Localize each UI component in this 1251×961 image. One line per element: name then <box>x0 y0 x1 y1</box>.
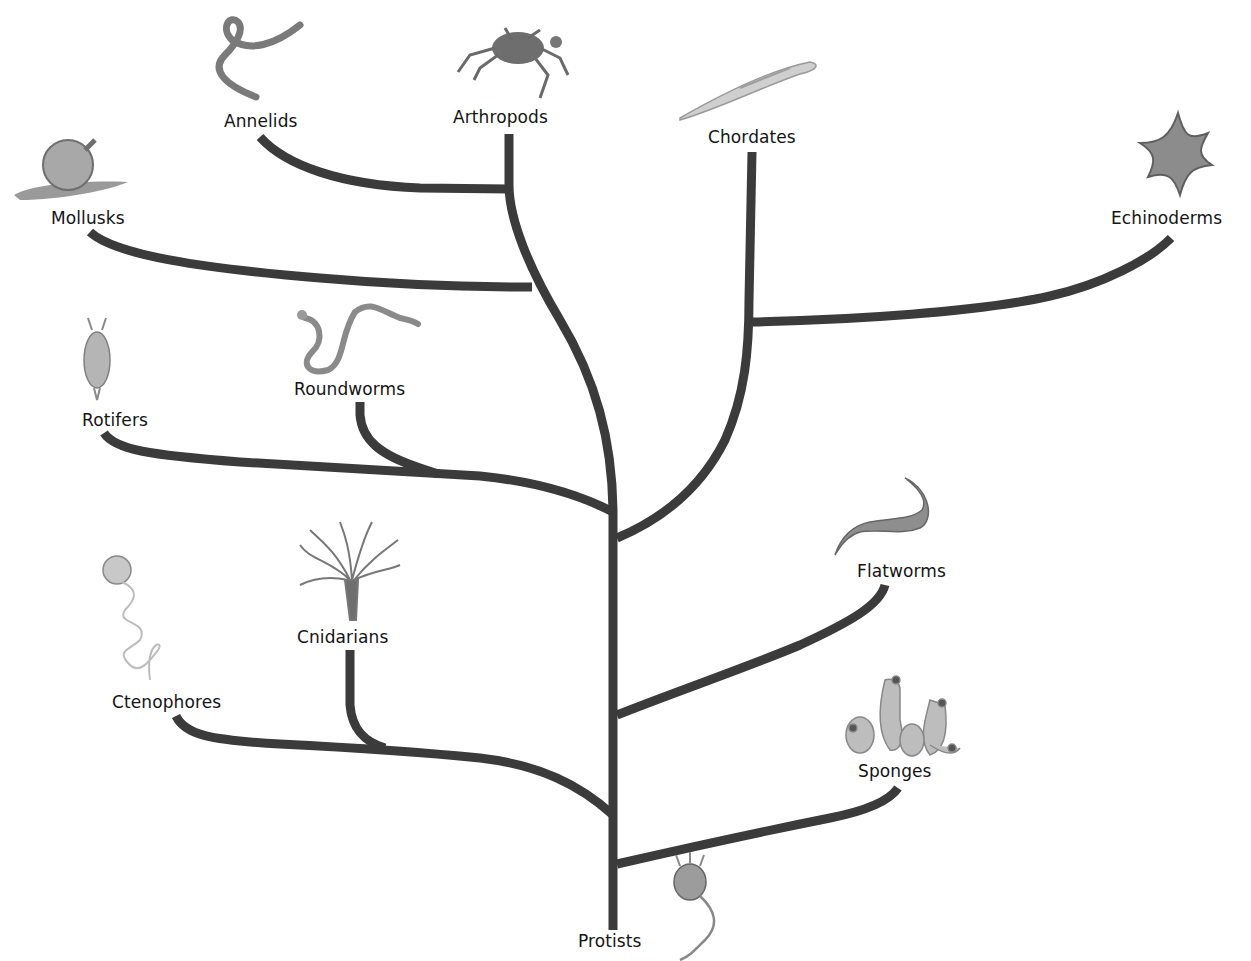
flatworms-branch <box>617 585 885 715</box>
comb-jelly-icon <box>103 556 160 680</box>
chordates-branch <box>617 152 752 538</box>
phylogenetic-tree <box>0 0 1251 961</box>
label-roundworms: Roundworms <box>294 379 405 399</box>
roundworm-icon <box>297 306 418 371</box>
label-arthropods: Arthropods <box>453 107 548 127</box>
roundworms-branch <box>360 402 438 474</box>
flatworm-icon <box>835 478 928 555</box>
earthworm-icon <box>219 20 300 97</box>
label-ctenophores: Ctenophores <box>112 692 221 712</box>
label-echinoderms: Echinoderms <box>1111 208 1222 228</box>
choanoflagellate-icon <box>674 852 714 960</box>
label-sponges: Sponges <box>858 761 932 781</box>
rotifer-icon <box>84 318 110 400</box>
label-annelids: Annelids <box>224 111 298 131</box>
label-flatworms: Flatworms <box>857 561 946 581</box>
sponges-branch <box>617 788 898 864</box>
rotifers-branch <box>104 433 613 512</box>
label-mollusks: Mollusks <box>51 208 125 228</box>
label-chordates: Chordates <box>708 127 796 147</box>
ctenophores-branch <box>176 716 613 815</box>
label-cnidarians: Cnidarians <box>297 627 388 647</box>
cnidarians-branch <box>350 650 385 748</box>
crab-icon <box>458 28 568 98</box>
sea-anemone-icon <box>300 522 400 620</box>
lancelet-icon <box>680 62 816 120</box>
mollusks-branch <box>90 232 532 287</box>
echinoderms-branch <box>751 238 1171 322</box>
label-rotifers: Rotifers <box>82 410 148 430</box>
sponge-icon <box>846 676 960 756</box>
annelids-branch <box>260 137 510 189</box>
snail-icon <box>14 140 128 200</box>
label-protists: Protists <box>578 931 642 951</box>
starfish-icon <box>1140 113 1212 195</box>
